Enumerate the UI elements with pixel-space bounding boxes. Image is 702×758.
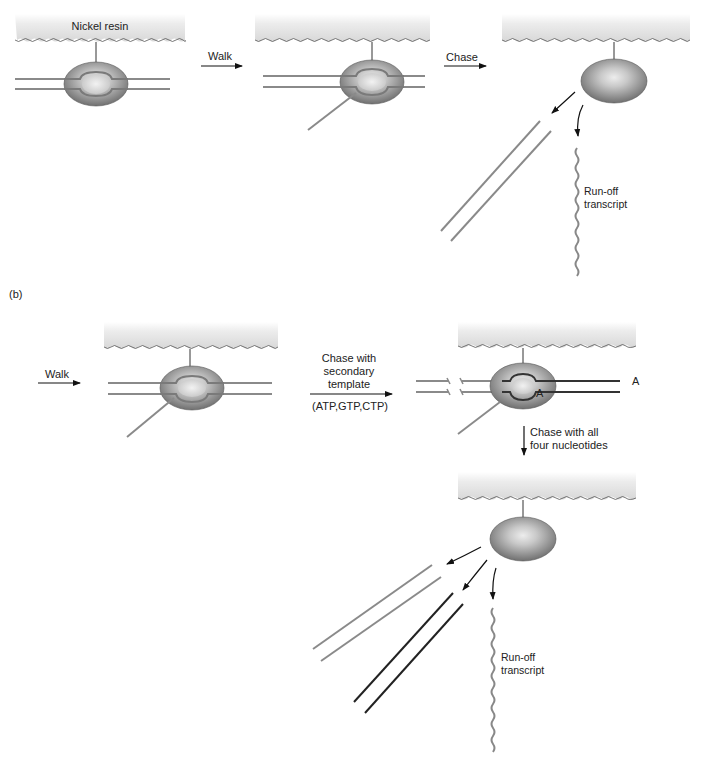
rna-polymerase — [490, 517, 556, 561]
released-secondary-template — [354, 593, 463, 713]
chase-all-label-1: Chase with all — [530, 426, 598, 438]
chase-arrow: Chase — [444, 51, 486, 66]
nucleotide-marker-bottom: A — [536, 387, 544, 399]
nickel-resin-block: Nickel resin — [15, 14, 185, 42]
nickel-resin-block — [104, 322, 278, 349]
nascent-rna — [308, 93, 356, 130]
run-off-transcript — [492, 608, 495, 752]
chase-secondary-arrow: Chase with secondary template (ATP,GTP,C… — [310, 352, 392, 412]
resin-label: Nickel resin — [72, 20, 129, 32]
run-off-label: Run-off — [501, 651, 535, 663]
release-arrow-rna — [493, 568, 496, 599]
nascent-rna — [458, 402, 500, 434]
nickel-resin-block — [458, 322, 636, 348]
chase-all-label-2: four nucleotides — [530, 439, 608, 451]
nucleotides-label: (ATP,GTP,CTP) — [312, 400, 388, 412]
rna-polymerase — [160, 366, 224, 410]
chase-secondary-label-2: secondary — [324, 365, 375, 377]
release-arrow-dna — [552, 92, 575, 113]
diagram-canvas: Nickel resin Walk — [0, 0, 702, 758]
walk-label: Walk — [45, 368, 70, 380]
released-dna — [441, 121, 551, 241]
run-off-transcript — [576, 148, 579, 276]
nascent-rna — [127, 398, 174, 437]
transcript-label: transcript — [501, 664, 544, 676]
transcript-label: transcript — [584, 198, 627, 210]
released-template-dna — [313, 565, 441, 661]
panel-b: (b) Walk Chase with secondary template — [9, 288, 640, 752]
release-arrow-dark-dna — [463, 560, 487, 590]
chase-all-arrow: Chase with all four nucleotides — [524, 426, 608, 455]
nickel-resin-block — [255, 14, 430, 42]
release-arrow-gray-dna — [447, 547, 481, 564]
run-off-label: Run-off — [584, 185, 618, 197]
chase-label: Chase — [446, 51, 478, 63]
nucleotide-marker-top: A — [632, 375, 640, 387]
rna-polymerase — [64, 62, 128, 106]
nickel-resin-block — [502, 14, 690, 42]
release-arrow-rna — [578, 105, 583, 136]
walk-arrow: Walk — [201, 50, 242, 66]
nickel-resin-block — [458, 472, 636, 500]
chase-secondary-label-3: template — [328, 378, 370, 390]
rna-polymerase — [490, 363, 620, 409]
walk-arrow: Walk — [38, 368, 80, 383]
panel-a: Nickel resin Walk — [15, 14, 690, 276]
walk-label: Walk — [208, 50, 233, 62]
panel-b-label: (b) — [9, 288, 22, 300]
broken-template-dna — [416, 378, 494, 395]
chase-secondary-label-1: Chase with — [322, 352, 376, 364]
rna-polymerase — [581, 59, 647, 103]
